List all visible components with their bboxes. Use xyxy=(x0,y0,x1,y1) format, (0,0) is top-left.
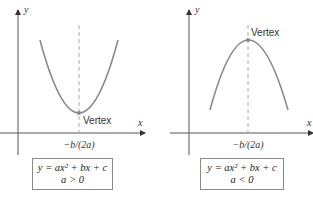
equation: y = ax² + bx + c xyxy=(201,162,283,174)
vertex-point xyxy=(246,38,250,42)
x-axis-label: x xyxy=(137,117,143,128)
y-axis-label: y xyxy=(194,4,200,15)
right-graph: y x Vertex −b/(2a) xyxy=(170,4,313,155)
vertex-label: Vertex xyxy=(251,27,279,38)
condition: a < 0 xyxy=(201,174,283,186)
equation: y = ax² + bx + c xyxy=(33,162,112,174)
parabola-down xyxy=(210,40,288,110)
equation-box-right: y = ax² + bx + c a < 0 xyxy=(200,158,284,190)
condition: a > 0 xyxy=(33,174,112,186)
tick-label: −b/(2a) xyxy=(63,139,95,151)
tick-label: −b/(2a) xyxy=(232,139,264,151)
vertex-label: Vertex xyxy=(83,115,111,126)
vertex-point xyxy=(77,111,81,115)
left-graph: y x Vertex −b/(2a) xyxy=(0,4,145,155)
y-axis-label: y xyxy=(23,4,29,15)
equation-box-left: y = ax² + bx + c a > 0 xyxy=(32,158,113,190)
x-axis-label: x xyxy=(306,117,312,128)
